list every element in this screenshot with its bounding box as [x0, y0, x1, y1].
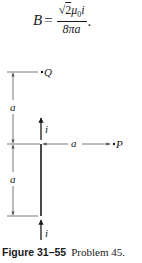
point-q-label: Q [44, 66, 52, 78]
wire-diagram: a a i i a Q P [0, 0, 142, 245]
horizontal-dimension-label: a [71, 137, 77, 149]
figure-caption: Figure 31–55Problem 45. [2, 246, 125, 258]
point-p-label: P [115, 138, 123, 150]
figure-label: Figure 31–55 [2, 246, 66, 258]
point-p-dot-icon [113, 143, 115, 145]
point-q-dot-icon [41, 71, 43, 73]
upper-dimension-label: a [10, 101, 16, 113]
lower-dimension-label: a [10, 173, 16, 185]
current-label-upper: i [45, 123, 48, 135]
problem-label: Problem 45. [71, 246, 125, 258]
current-label-lower: i [45, 227, 48, 239]
